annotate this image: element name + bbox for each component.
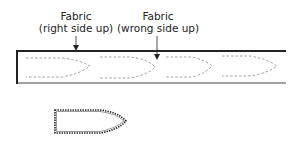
fabric-layout-diagram [0, 0, 301, 143]
pattern-piece [26, 58, 90, 77]
pattern-piece [222, 56, 277, 76]
arrow-wrong-side [154, 36, 160, 60]
pattern-piece [100, 57, 155, 78]
arrow-right-side [73, 36, 79, 51]
pattern-piece [166, 57, 212, 77]
pinked-cut-piece [55, 110, 126, 133]
fabric-strip [16, 50, 286, 84]
pattern-pieces [26, 56, 277, 78]
